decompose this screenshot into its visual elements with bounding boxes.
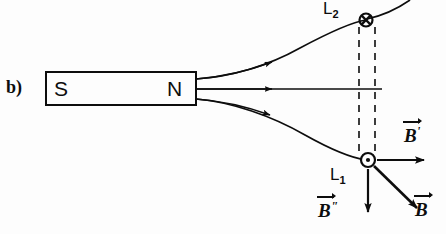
vector-b-prime-symbol: B [404,126,417,145]
vector-b-symbol: B [415,200,428,219]
part-label: b) [6,78,22,96]
field-line-upper-arrow [196,62,272,79]
vector-b-double-prime-label: B" [318,199,338,220]
vector-b-double-prime-symbol: B [318,201,331,220]
point-l2-subscript: 2 [332,8,338,20]
south-pole-label: S [54,78,68,99]
diagram-canvas [0,0,446,234]
vector-b-arrow [374,166,417,208]
vector-b-double-prime-mark: " [331,198,338,213]
vector-b-prime-mark: ' [417,123,421,138]
field-line-lower-arrow [196,99,270,115]
point-l1-label: L1 [330,166,346,186]
physics-field-diagram: b) S N L2 L1 B' B" B [0,0,446,234]
field-line-upper [196,20,366,79]
vector-b-label: B [415,198,428,219]
point-l2-label: L2 [323,0,339,20]
vector-b-prime-label: B' [404,124,420,145]
dotted-circle-icon [361,153,375,167]
crossed-circle-icon [360,14,373,27]
field-line-lower [196,99,366,160]
point-l1-subscript: 1 [339,174,345,186]
north-pole-label: N [167,78,182,99]
field-line-upper-continuation [367,0,410,19]
